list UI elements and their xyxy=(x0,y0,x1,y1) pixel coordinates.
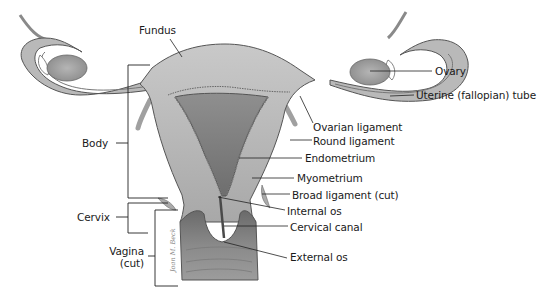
label-body: Body xyxy=(82,137,108,149)
label-cervix: Cervix xyxy=(77,211,110,223)
left-uterine-tube xyxy=(20,15,150,95)
label-vagina: Vagina xyxy=(104,245,144,257)
label-myometrium: Myometrium xyxy=(297,172,363,184)
uterus-diagram: Fundus Body Cervix Vagina (cut) Ovary Ut… xyxy=(0,0,542,299)
left-ovary xyxy=(47,55,87,81)
label-round-ligament: Round ligament xyxy=(313,135,395,147)
right-uterine-tube xyxy=(330,12,468,101)
label-fundus: Fundus xyxy=(139,24,176,36)
label-endometrium: Endometrium xyxy=(305,152,375,164)
label-internal-os: Internal os xyxy=(287,205,342,217)
label-ovary: Ovary xyxy=(435,65,466,77)
right-ovary xyxy=(350,59,390,85)
label-ovarian-ligament: Ovarian ligament xyxy=(313,121,402,133)
label-cervical-canal: Cervical canal xyxy=(290,221,363,233)
cervix-bracket xyxy=(128,203,168,233)
ovarian-ligament-leader xyxy=(300,96,313,123)
label-uterine-tube: Uterine (fallopian) tube xyxy=(416,89,536,101)
anatomy-illustration xyxy=(0,0,542,299)
label-external-os: External os xyxy=(290,251,348,263)
label-vagina-cut: (cut) xyxy=(104,257,144,269)
label-broad-ligament: Broad ligament (cut) xyxy=(292,189,399,201)
artist-signature: Joan M. Beck xyxy=(169,228,177,272)
left-round-ligament xyxy=(138,100,150,128)
